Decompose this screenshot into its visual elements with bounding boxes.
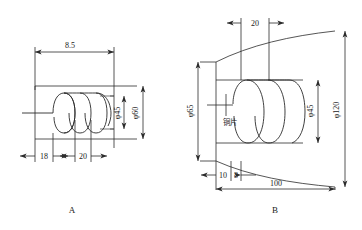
dim-label-coil-inner-diameter: φ45 xyxy=(306,105,315,118)
panel-b: 20 铜片 xyxy=(186,18,345,215)
dim-label-pitch: 20 xyxy=(251,19,259,28)
dim-label-outer-diameter: φ60 xyxy=(131,107,140,120)
dim-b-pitch: 20 xyxy=(227,18,284,80)
panel-a: 8.5 xyxy=(20,41,143,215)
panel-a-caption: A xyxy=(69,205,76,215)
dim-label-sheet-thickness: 8 xyxy=(234,171,238,180)
coil-b-turn-1 xyxy=(233,80,264,143)
drawing-canvas: 8.5 xyxy=(0,0,362,230)
coil-a-turn-3 xyxy=(80,93,107,133)
copper-sheet-mark: 铜片 xyxy=(207,94,237,127)
dim-a-bottom-group: 18 20 xyxy=(20,120,107,162)
dim-a-outer-diameter: φ60 xyxy=(131,86,143,139)
dim-a-inner-diameter: φ45 xyxy=(113,96,124,129)
dim-label-edge-offset: 10 xyxy=(219,171,227,180)
dim-label-overall-length: 8.5 xyxy=(65,41,75,50)
dim-label-pitch: 20 xyxy=(79,152,87,161)
coil-a-windings xyxy=(53,93,111,133)
coil-b-turn-2 xyxy=(247,80,285,143)
dim-b-coil-inner-diameter: φ45 xyxy=(306,80,318,143)
coil-b-windings xyxy=(233,80,305,143)
coil-b-turn-3 xyxy=(268,80,305,143)
outline-top-curve xyxy=(216,31,335,62)
dim-label-inner-diameter: φ45 xyxy=(113,107,122,120)
dim-label-outer-diameter: φ120 xyxy=(332,102,341,119)
dim-label-left-diameter: φ65 xyxy=(186,105,195,118)
technical-drawing-sheet: 8.5 xyxy=(0,0,362,230)
dim-b-outer-diameter: φ120 xyxy=(332,31,345,187)
dim-b-left-diameter: φ65 xyxy=(186,62,198,161)
panel-b-caption: B xyxy=(272,205,278,215)
dim-label-start-offset: 18 xyxy=(40,152,48,161)
coil-a-turn-1-back xyxy=(64,93,75,133)
coil-a-turn-2 xyxy=(64,93,91,133)
dim-label-overall-length: 100 xyxy=(270,179,282,188)
dim-b-bottom-group: 10 8 100 xyxy=(201,161,335,190)
